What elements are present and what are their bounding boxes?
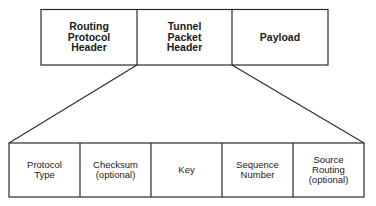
- tunnel-packet-header-label: Tunnel Packet Header: [167, 21, 203, 53]
- key-label: Key: [178, 165, 194, 175]
- routing-protocol-header-cell: Routing Protocol Header: [41, 9, 137, 65]
- expansion-line-left: [9, 65, 137, 143]
- checksum-cell: Checksum (optional): [80, 143, 151, 197]
- checksum-label: Checksum (optional): [93, 160, 138, 180]
- payload-cell: Payload: [232, 9, 328, 65]
- payload-label: Payload: [260, 32, 300, 43]
- routing-protocol-header-label: Routing Protocol Header: [68, 21, 111, 53]
- sequence-number-cell: Sequence Number: [222, 143, 293, 197]
- protocol-type-label: Protocol Type: [27, 160, 62, 180]
- tunnel-packet-header-cell: Tunnel Packet Header: [137, 9, 232, 65]
- sequence-number-label: Sequence Number: [236, 160, 279, 180]
- protocol-type-cell: Protocol Type: [9, 143, 80, 197]
- key-cell: Key: [151, 143, 222, 197]
- expansion-line-right: [232, 65, 364, 143]
- source-routing-label: Source Routing (optional): [309, 155, 349, 185]
- source-routing-cell: Source Routing (optional): [293, 143, 364, 197]
